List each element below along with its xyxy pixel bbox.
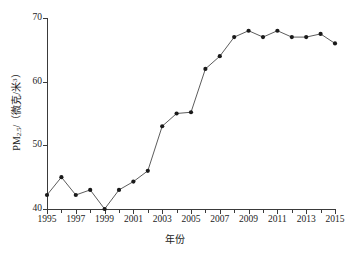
y-axis-line (47, 18, 48, 210)
x-tick-mark-minor (234, 210, 235, 213)
y-tick-mark (43, 82, 47, 83)
y-tick-mark (43, 145, 47, 146)
data-point (117, 188, 121, 192)
x-tick-mark-minor (205, 210, 206, 213)
x-tick-mark-minor (148, 210, 149, 213)
data-point (333, 41, 337, 45)
series-markers (45, 29, 337, 211)
data-point (59, 175, 63, 179)
x-tick-mark-minor (177, 210, 178, 213)
data-point (290, 35, 294, 39)
data-point (261, 35, 265, 39)
data-point (131, 180, 135, 184)
data-point (319, 32, 323, 36)
data-point (88, 188, 92, 192)
x-axis-title: 年份 (0, 231, 350, 246)
data-point (304, 35, 308, 39)
x-tick-label: 2015 (318, 215, 350, 225)
data-point (189, 110, 193, 114)
data-point (232, 35, 236, 39)
x-tick-mark-minor (119, 210, 120, 213)
data-point (218, 54, 222, 58)
y-tick-label: 40 (12, 204, 42, 214)
data-point (203, 67, 207, 71)
series-line (47, 31, 335, 209)
x-tick-mark-minor (61, 210, 62, 213)
data-point (160, 124, 164, 128)
x-tick-mark-minor (321, 210, 322, 213)
data-point (275, 29, 279, 33)
y-tick-label-text: 40 (18, 204, 42, 214)
data-point (74, 193, 78, 197)
y-tick-label: 70 (12, 13, 42, 23)
y-tick-mark (43, 18, 47, 19)
y-axis-title: PM2.5/（微克/米3） (8, 30, 23, 190)
data-point (146, 169, 150, 173)
x-tick-mark-minor (90, 210, 91, 213)
pm25-line-chart: 40506070 1995199719992001200320052007200… (0, 0, 350, 258)
x-tick-mark-minor (263, 210, 264, 213)
y-tick-label-text: 70 (18, 13, 42, 23)
data-point (175, 111, 179, 115)
x-tick-mark-minor (292, 210, 293, 213)
data-point (247, 29, 251, 33)
